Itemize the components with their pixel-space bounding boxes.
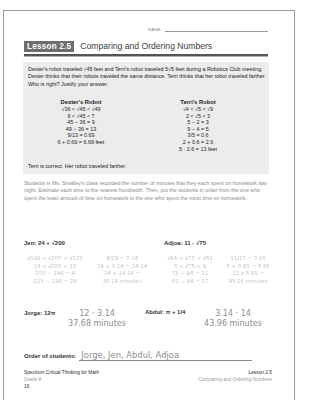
grade-label: Grade 8	[24, 376, 99, 383]
work-line: 95.15 minutes	[214, 278, 282, 286]
adjoa-label: Adjoa: 11 · √75	[164, 240, 206, 246]
adjoa-work-left: √64 < √75 < √81 8 < √75 < 9 75 − 64 = 11…	[160, 255, 220, 285]
work-line: 8 + 0.65 = 8.65	[214, 263, 282, 271]
work-line: 11/17 = 0.65	[214, 255, 282, 263]
work-line: 3.14 · 14	[190, 309, 276, 319]
work-line: 9 − 4 = 5	[153, 126, 243, 133]
work-line: 6 < √45 < 7	[36, 113, 126, 120]
work-line: 2 < √5 < 3	[153, 113, 243, 120]
abdul-work: 3.14 · 14 43.96 minutes	[190, 309, 276, 328]
footer-right: Lesson 2.5 Comparing and Ordering Number…	[198, 369, 272, 383]
order-label: Order of students:	[24, 353, 76, 361]
work-line: √36 < √45 < √49	[36, 106, 126, 113]
dexter-robot-title: Dexter's Robot	[36, 99, 126, 106]
jen-work-left: √196 < √200 < √225 14 < √200 < 15 200 − …	[20, 255, 90, 285]
work-line: 37.68 minutes	[56, 319, 138, 329]
work-line: 14 + 0.14 = 14.14	[88, 263, 156, 271]
work-line: 8 < √75 < 9	[160, 263, 220, 271]
work-line: 3/5 = 0.6	[153, 132, 243, 139]
work-line: 38.14 minutes	[88, 278, 156, 286]
terri-robot-title: Terri's Robot	[153, 99, 243, 106]
work-line: 81 − 64 = 17	[160, 278, 220, 286]
work-line: 12 · 3.14	[56, 309, 138, 319]
order-of-students: Order of students: Jorge, Jen, Abdul, Ad…	[24, 347, 252, 361]
work-line: 6 + 0.69 = 6.69 feet	[36, 139, 126, 146]
jorge-label: Jorge: 12π	[24, 310, 55, 316]
adjoa-work-right: 11/17 = 0.65 8 + 0.65 = 8.65 11 x 8.65 =…	[214, 255, 282, 285]
abdul-label: Abdul: π + 1/4	[145, 309, 185, 315]
book-title: Spectrum Critical Thinking for Math	[24, 369, 99, 376]
work-line: 9/13 = 0.69	[36, 132, 126, 139]
jorge-work: 12 · 3.14 37.68 minutes	[56, 309, 138, 328]
work-line: √64 < √75 < √81	[160, 255, 220, 263]
order-answer-field[interactable]: Jorge, Jen, Abdul, Adjoa	[79, 350, 252, 361]
footer-left: Spectrum Critical Thinking for Math Grad…	[24, 369, 99, 390]
work-line: 4/29 = 0.14	[88, 255, 156, 263]
jen-work-right: 4/29 = 0.14 14 + 0.14 = 14.14 24 + 14.14…	[88, 255, 156, 285]
work-line: 5 − 2 = 3	[153, 119, 243, 126]
footer-lesson-title: Comparing and Ordering Numbers	[198, 376, 272, 383]
problem-instructions: Students in Ms. Smalley's class recorded…	[24, 180, 274, 202]
work-line: 45 − 36 = 9	[36, 119, 126, 126]
lesson-badge: Lesson 2.5	[24, 41, 74, 52]
example-prompt: Dexter's robot traveled √45 feet and Ter…	[28, 66, 266, 88]
work-line: √196 < √200 < √225	[20, 255, 90, 263]
name-label: NAME	[148, 27, 161, 32]
dexter-robot-work: Dexter's Robot √36 < √45 < √49 6 < √45 <…	[36, 99, 126, 146]
work-line: 5 · 2.6 = 13 feet	[153, 146, 243, 153]
footer-lesson: Lesson 2.5	[198, 369, 272, 376]
lesson-header: Lesson 2.5 Comparing and Ordering Number…	[24, 39, 268, 53]
terri-robot-work: Terri's Robot √4 < √5 < √9 2 < √5 < 3 5 …	[153, 99, 243, 152]
example-answer: Terri is correct. Her robot traveled far…	[28, 163, 126, 169]
header-divider	[24, 54, 268, 57]
work-line: 2 + 0.6 = 2.6	[153, 139, 243, 146]
work-line: 11 x 8.65 =	[214, 270, 282, 278]
work-line: √4 < √5 < √9	[153, 106, 243, 113]
work-line: 75 − 64 = 11	[160, 270, 220, 278]
work-line: 43.96 minutes	[190, 319, 276, 329]
work-line: 200 − 196 = 4	[20, 270, 90, 278]
work-line: 225 − 196 = 29	[20, 278, 90, 286]
work-line: 14 < √200 < 15	[20, 263, 90, 271]
name-write-line[interactable]	[165, 26, 268, 32]
work-line: 49 − 36 = 13	[36, 126, 126, 133]
example-box: Dexter's robot traveled √45 feet and Ter…	[23, 62, 269, 174]
name-field[interactable]: NAME	[148, 22, 268, 32]
lesson-title: Comparing and Ordering Numbers	[80, 41, 212, 51]
work-line: 24 + 14.14 =	[88, 270, 156, 278]
page-number: 16	[24, 383, 99, 390]
jen-label: Jen: 24 + √200	[24, 240, 65, 246]
